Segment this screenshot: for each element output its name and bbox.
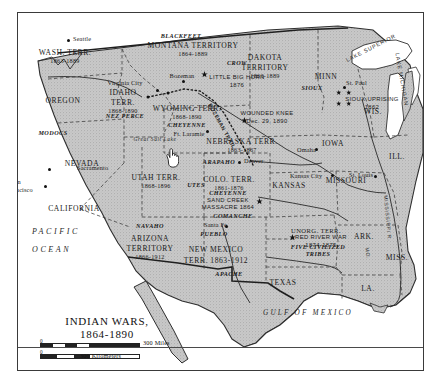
map-base-graphic: [18, 13, 423, 370]
map-plate: PACIFIC OCEAN GULF OF MEXICO LAKE SUPERI…: [17, 12, 424, 371]
map-frame: PACIFIC OCEAN GULF OF MEXICO LAKE SUPERI…: [0, 0, 439, 391]
caption-divider-rule: [18, 347, 423, 348]
